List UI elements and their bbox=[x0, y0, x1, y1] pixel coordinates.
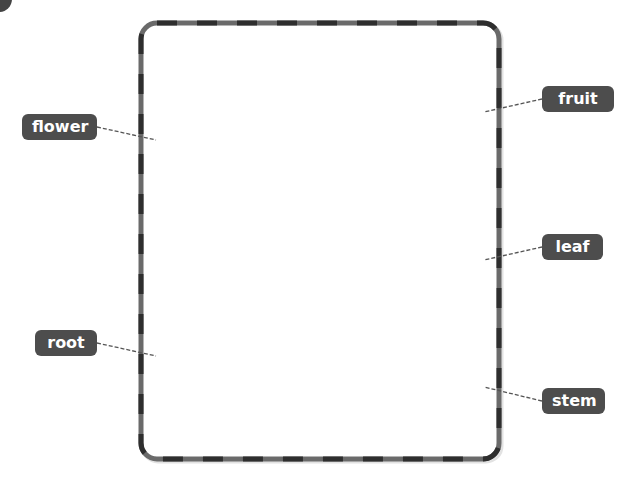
label-root: root bbox=[35, 330, 97, 356]
label-leaf: leaf bbox=[542, 234, 603, 260]
diagram-frame bbox=[136, 18, 504, 464]
corner-decoration bbox=[0, 0, 12, 12]
frame-border bbox=[136, 18, 504, 464]
label-flower: flower bbox=[22, 114, 97, 140]
label-stem: stem bbox=[542, 388, 605, 414]
label-fruit: fruit bbox=[542, 86, 614, 112]
